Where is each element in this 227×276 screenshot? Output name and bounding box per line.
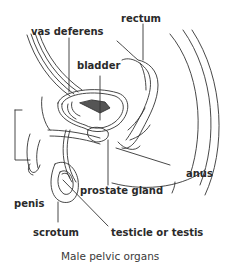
figure-caption: Male pelvic organs — [61, 251, 159, 262]
pelvic-anatomy-diagram: rectum vas deferens bladder anus prostat… — [0, 0, 227, 276]
label-penis: penis — [14, 199, 44, 209]
label-testicle: testicle or testis — [111, 228, 203, 238]
label-prostate-gland: prostate gland — [80, 186, 163, 196]
label-vas-deferens: vas deferens — [31, 27, 104, 37]
label-bladder: bladder — [77, 61, 120, 71]
label-rectum: rectum — [121, 14, 161, 24]
label-scrotum: scrotum — [33, 228, 79, 238]
label-anus: anus — [186, 169, 213, 179]
